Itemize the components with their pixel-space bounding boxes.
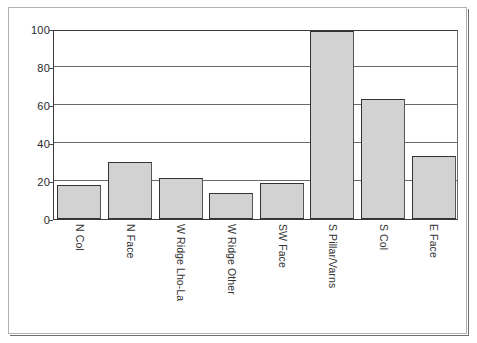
x-axis-label-slot: S Col (357, 222, 408, 332)
x-axis-tick-label: N Col (73, 224, 84, 251)
y-axis-tick-label: 0 (6, 215, 50, 226)
gridline (54, 66, 457, 67)
x-axis-tick-label: SW Face (276, 224, 287, 268)
bar-n-col (57, 185, 101, 219)
x-axis-label-slot: S Pillar/Varns (306, 222, 357, 332)
x-axis-tick-label: S Col (377, 224, 388, 250)
x-axis-label-slot: N Face (104, 222, 155, 332)
y-axis-tick-mark (49, 220, 53, 221)
bar-e-face (412, 156, 456, 219)
bar-s-pillar-varns (310, 31, 354, 219)
x-axis-label-slot: W Ridge Lho-La (154, 222, 205, 332)
bar-w-ridge-lho-la (159, 178, 203, 219)
x-axis: N ColN FaceW Ridge Lho-LaW Ridge OtherSW… (53, 222, 458, 332)
y-axis-tick-label: 100 (6, 25, 50, 36)
x-axis-label-slot: N Col (53, 222, 104, 332)
x-axis-tick-label: W Ridge Other (225, 224, 236, 295)
bar-w-ridge-other (209, 193, 253, 219)
plot-area (53, 30, 458, 220)
y-axis-tick-label: 20 (6, 177, 50, 188)
y-axis-tick-label: 60 (6, 101, 50, 112)
bar-sw-face (260, 183, 304, 219)
x-axis-label-slot: SW Face (256, 222, 307, 332)
bar-s-col (361, 99, 405, 219)
bar-n-face (108, 162, 152, 219)
x-axis-label-slot: E Face (407, 222, 458, 332)
x-axis-tick-label: S Pillar/Varns (326, 224, 337, 288)
x-axis-tick-label: E Face (427, 224, 438, 258)
x-axis-tick-label: N Face (124, 224, 135, 258)
chart-screenshot: 100806040200 N ColN FaceW Ridge Lho-LaW … (0, 0, 477, 343)
y-axis-tick-label: 80 (6, 63, 50, 74)
x-axis-label-slot: W Ridge Other (205, 222, 256, 332)
x-axis-tick-label: W Ridge Lho-La (174, 224, 185, 301)
y-axis: 100806040200 (0, 30, 50, 220)
y-axis-tick-label: 40 (6, 139, 50, 150)
